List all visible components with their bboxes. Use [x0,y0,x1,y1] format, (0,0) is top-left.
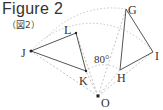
point-K [85,70,87,72]
label-G: G [128,3,137,17]
point-O [97,95,100,98]
point-L [75,32,77,34]
rotation-diagram: J L K G I H O 80° [0,0,163,110]
arc-L-to-G [46,8,126,38]
triangle-JLK [31,33,86,71]
ray-O-K [86,71,98,96]
label-K: K [79,74,88,88]
label-I: I [155,49,159,63]
vertex-points [30,32,100,98]
arc-K-to-H [86,65,120,71]
ray-O-J [31,51,98,96]
point-J [30,50,33,53]
arc-J-to-I [31,23,153,52]
rotation-angle-label: 80° [94,53,109,65]
label-O: O [101,96,110,110]
label-J: J [21,46,26,60]
label-H: H [117,71,126,85]
label-L: L [64,23,71,37]
triangle-GIH [120,9,153,70]
